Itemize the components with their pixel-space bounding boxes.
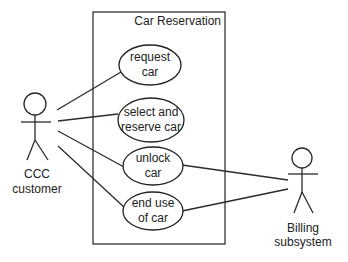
actor-right-leg [302,192,313,213]
use-case-request-car[interactable]: request car [119,45,181,85]
use-case-select-and-reserve-car[interactable]: select and reserve car [118,98,184,142]
stick-figure-icon [288,148,318,213]
system-title: Car Reservation [134,14,221,28]
actor-left-leg [294,192,302,213]
use-case-label-line1: unlock [136,151,172,165]
stick-figure-icon [21,93,51,160]
actor-billing-subsystem[interactable]: Billing subsystem [274,148,331,249]
actor-head [24,93,46,115]
use-case-label-line2: reserve car [121,120,181,134]
actor-right-leg [35,140,48,160]
actor-ccc-customer[interactable]: CCC customer [12,93,61,196]
use-case-label-line2: of car [138,211,168,225]
use-case-end-use-of-car[interactable]: end use of car [123,192,183,230]
actor-head [292,148,312,168]
actor-label-line2: subsystem [274,235,331,249]
use-case-label-line2: car [145,166,162,180]
use-case-unlock-car[interactable]: unlock car [123,147,183,185]
actor-label-line1: CCC [24,167,50,181]
use-case-label-line1: select and [124,105,179,119]
use-case-label-line1: request [130,50,171,64]
use-case-label-line2: car [142,65,159,79]
actor-label-line2: customer [12,182,61,196]
use-case-diagram: Car Reservation request car select and r… [0,0,348,262]
actor-label-line1: Billing [287,221,319,235]
actor-left-leg [27,140,35,160]
use-case-label-line1: end use [132,196,175,210]
